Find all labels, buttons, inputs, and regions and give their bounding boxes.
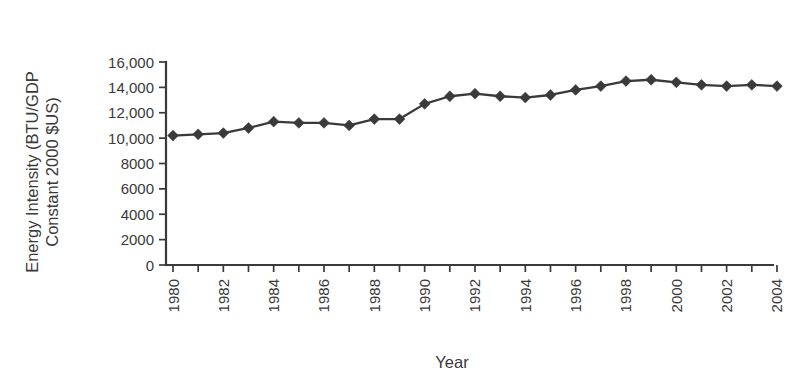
x-tick-label-1980: 1980 [165, 279, 182, 312]
x-tick-label-1988: 1988 [366, 279, 383, 312]
y-tick-label-4000: 4000 [121, 206, 154, 223]
y-tick-label-0: 0 [146, 257, 154, 274]
x-axis-title: Year [435, 353, 469, 371]
x-tick-label-1990: 1990 [416, 279, 433, 312]
y-tick-label-6000: 6000 [121, 180, 154, 197]
x-tick-label-1994: 1994 [517, 279, 534, 312]
y-tick-label-8000: 8000 [121, 155, 154, 172]
y-tick-label-10,000: 10,000 [108, 130, 154, 147]
y-axis-title-line-1: Energy Intensity (BTU/GDP [23, 71, 41, 273]
y-axis-title-line-2: Constant 2000 $US) [43, 97, 61, 247]
x-tick-label-2000: 2000 [668, 279, 685, 312]
x-tick-label-2004: 2004 [768, 279, 785, 312]
y-tick-label-2000: 2000 [121, 231, 154, 248]
x-tick-label-1998: 1998 [617, 279, 634, 312]
x-tick-label-1992: 1992 [466, 279, 483, 312]
x-tick-label-2002: 2002 [718, 279, 735, 312]
x-tick-label-1982: 1982 [215, 279, 232, 312]
x-tick-label-1984: 1984 [265, 279, 282, 312]
y-tick-label-16,000: 16,000 [108, 54, 154, 71]
y-tick-label-12,000: 12,000 [108, 104, 154, 121]
x-tick-label-1986: 1986 [315, 279, 332, 312]
y-tick-label-14,000: 14,000 [108, 79, 154, 96]
chart-figure: Energy Intensity (BTU/GDP Constant 2000 … [0, 0, 794, 379]
line-chart: Energy Intensity (BTU/GDP Constant 2000 … [0, 0, 794, 379]
x-tick-label-1996: 1996 [567, 279, 584, 312]
